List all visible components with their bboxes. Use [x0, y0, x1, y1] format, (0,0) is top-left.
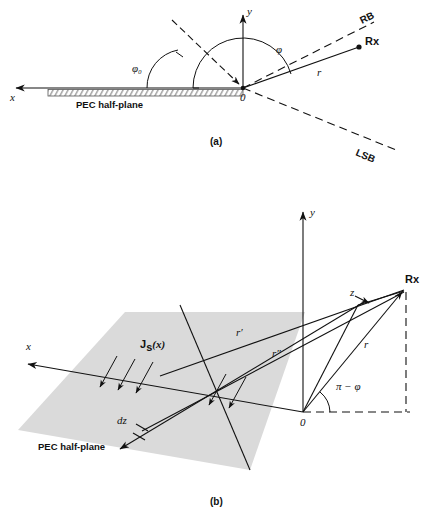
pi-minus-phi-arc-b — [320, 392, 330, 412]
phi0-arc-tick-a — [176, 52, 183, 57]
phi0-arc-a — [147, 50, 178, 88]
dz-label-b: dz — [117, 414, 128, 426]
current-argument: (x) — [152, 338, 165, 351]
panel-caption-a: (a) — [210, 136, 222, 147]
phi-label-a: φ — [276, 43, 282, 55]
r-ray-b — [303, 292, 402, 412]
rx-label-a: Rx — [365, 35, 380, 47]
origin-label-b: 0 — [300, 416, 306, 428]
reflection-boundary-label: RB — [358, 9, 376, 25]
x-axis-label-a: x — [9, 91, 15, 103]
z-axis-label-b: z — [349, 286, 355, 298]
r-label-b: r — [364, 338, 369, 350]
incident-ray-a — [172, 20, 239, 84]
figure-container: x y 0 RB LSB Rx r φ φ₀ PEC half-plane (a… — [0, 0, 434, 519]
panel-a: x y 0 RB LSB Rx r φ φ₀ PEC half-plane (a… — [9, 5, 396, 165]
shadow-boundary-line — [243, 88, 396, 150]
figure-svg: x y 0 RB LSB Rx r φ φ₀ PEC half-plane (a… — [0, 0, 434, 519]
r-prime-label-b: r′ — [236, 326, 243, 338]
pec-hatch-rect-a — [48, 90, 243, 97]
x-axis-label-b: x — [25, 340, 31, 352]
y-axis-label-b: y — [309, 206, 315, 218]
panel-b: x y 0 z dz Rx r r′ r″ — [18, 206, 420, 507]
r-label-a: r — [317, 66, 322, 78]
pi-minus-phi-label-b: π − φ — [336, 380, 361, 392]
r-double-prime-label-b: r″ — [272, 347, 281, 359]
reflection-boundary-line — [243, 22, 374, 88]
rx-dot-a — [356, 44, 361, 49]
origin-to-z-connector-b — [303, 305, 358, 412]
shadow-boundary-label: LSB — [354, 147, 377, 165]
origin-label-a: 0 — [240, 91, 246, 103]
y-axis-label-a: y — [246, 5, 252, 17]
phi0-label-a: φ₀ — [132, 62, 142, 74]
pec-label-a: PEC half-plane — [76, 99, 143, 110]
rx-label-b: Rx — [405, 273, 420, 285]
pec-label-b: PEC half-plane — [38, 441, 105, 452]
pec-halfplane-a — [48, 90, 243, 97]
panel-caption-b: (b) — [210, 496, 223, 507]
r-ray-a — [243, 47, 359, 88]
